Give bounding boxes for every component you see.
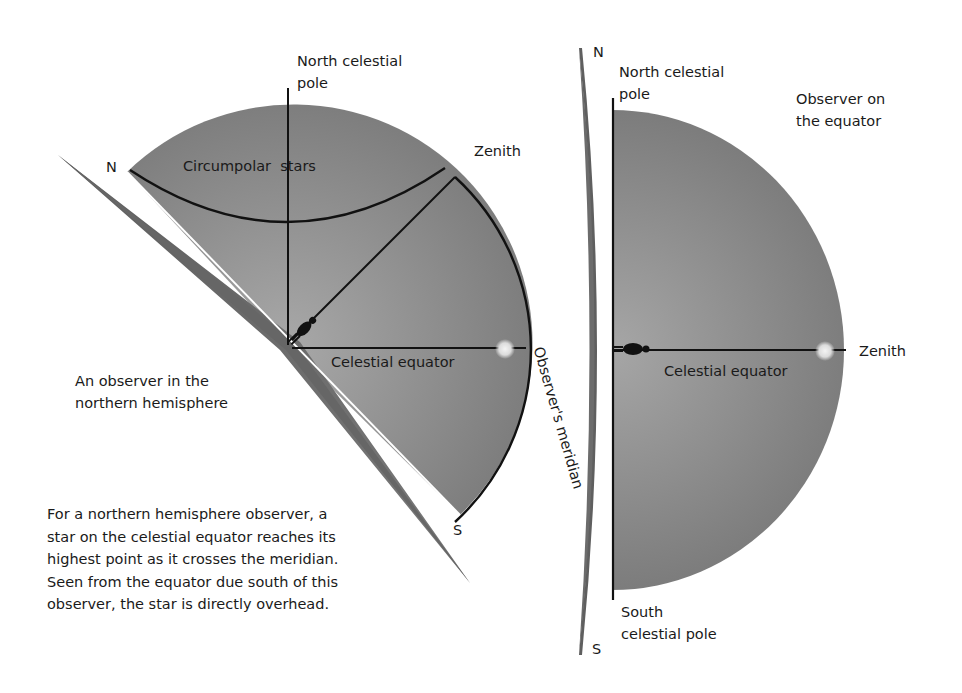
right-star-icon <box>815 341 835 361</box>
left-south-label: S <box>453 519 462 541</box>
right-caption-line-1: Observer on <box>796 88 885 110</box>
right-zenith-label: Zenith <box>859 340 906 362</box>
left-star-icon <box>495 339 515 359</box>
right-diagram <box>579 48 846 655</box>
right-north-celestial-pole-label-1: North celestial <box>619 61 724 83</box>
right-south-celestial-pole-label-1: South <box>621 601 663 623</box>
right-caption-line-2: the equator <box>796 110 881 132</box>
right-north-label: N <box>593 41 604 63</box>
right-north-celestial-pole-label-2: pole <box>619 83 650 105</box>
left-north-label: N <box>106 156 117 178</box>
left-caption-line-2: northern hemisphere <box>75 392 228 414</box>
right-south-label: S <box>592 638 601 660</box>
left-north-celestial-pole-label-1: North celestial <box>297 50 402 72</box>
left-north-celestial-pole-label-2: pole <box>297 72 328 94</box>
left-caption-line-1: An observer in the <box>75 370 209 392</box>
left-celestial-equator-label: Celestial equator <box>331 351 455 373</box>
circumpolar-stars-label: Circumpolar stars <box>183 155 316 177</box>
description-paragraph: For a northern hemisphere observer, a st… <box>47 503 347 616</box>
right-south-celestial-pole-label-2: celestial pole <box>621 623 717 645</box>
left-zenith-label: Zenith <box>474 140 521 162</box>
right-celestial-equator-label: Celestial equator <box>664 360 788 382</box>
